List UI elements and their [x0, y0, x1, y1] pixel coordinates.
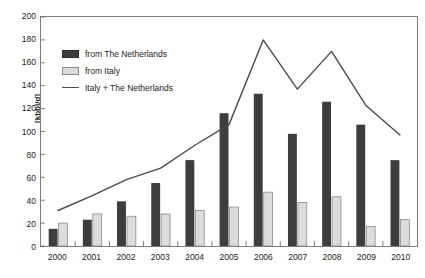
y-axis-tick-label: 180: [12, 35, 36, 44]
y-axis-tick-label: 80: [12, 150, 36, 159]
bar: [49, 229, 58, 246]
bar: [322, 102, 331, 246]
bar: [83, 220, 92, 246]
chart-legend: from The Netherlandsfrom ItalyItaly + Th…: [62, 46, 222, 97]
x-axis-tick-label: 2008: [323, 252, 342, 262]
bar: [254, 94, 263, 246]
x-axis-tick-label: 2002: [116, 252, 135, 262]
x-axis-tick-label: 2003: [151, 252, 170, 262]
legend-item-label: Italy + The Netherlands: [85, 83, 173, 93]
bar: [288, 134, 297, 246]
bar: [161, 214, 170, 246]
x-axis-tick-label: 2007: [288, 252, 307, 262]
legend-swatch-icon: [62, 67, 79, 75]
legend-item: Italy + The Netherlands: [62, 80, 222, 96]
bar: [127, 216, 136, 246]
y-axis-tick-label: 0: [12, 243, 36, 252]
bar: [185, 160, 194, 246]
x-axis-tick-label: 2009: [357, 252, 376, 262]
y-axis-tick-label: 60: [12, 173, 36, 182]
y-axis-tick-label: 120: [12, 104, 36, 113]
y-axis-tick-labels: 020406080100120140160180200: [12, 0, 36, 278]
bar: [195, 211, 204, 246]
bar: [117, 201, 126, 246]
bar: [366, 227, 375, 246]
x-axis-tick-label: 2010: [391, 252, 410, 262]
bar: [332, 197, 341, 246]
x-axis-tick-label: 2000: [48, 252, 67, 262]
legend-item-label: from Italy: [85, 66, 120, 76]
legend-swatch-icon: [62, 50, 79, 58]
y-axis-tick-label: 160: [12, 58, 36, 67]
chart-container: [kbbl/d] 020406080100120140160180200 200…: [0, 0, 425, 278]
bar: [391, 160, 400, 246]
x-axis-tick-labels: 2000200120022003200420052006200720082009…: [40, 252, 418, 268]
bar: [220, 113, 229, 246]
bar: [93, 214, 102, 246]
y-axis-tick-label: 20: [12, 220, 36, 229]
y-axis-ticks: [41, 17, 45, 246]
bar: [400, 220, 409, 246]
legend-item-label: from The Netherlands: [85, 49, 167, 59]
x-axis-tick-label: 2001: [82, 252, 101, 262]
x-axis-tick-label: 2005: [220, 252, 239, 262]
x-axis-tick-label: 2004: [185, 252, 204, 262]
x-axis-tick-label: 2006: [254, 252, 273, 262]
legend-item: from Italy: [62, 63, 222, 79]
y-axis-tick-label: 100: [12, 127, 36, 136]
bar: [298, 202, 307, 246]
legend-swatch-icon: [62, 84, 79, 92]
y-axis-tick-label: 140: [12, 81, 36, 90]
bar: [230, 207, 239, 246]
y-axis-tick-label: 40: [12, 197, 36, 206]
bar: [59, 223, 68, 246]
bar: [356, 125, 365, 246]
bar: [264, 192, 273, 246]
bar: [151, 183, 160, 246]
legend-item: from The Netherlands: [62, 46, 222, 62]
y-axis-tick-label: 200: [12, 12, 36, 21]
